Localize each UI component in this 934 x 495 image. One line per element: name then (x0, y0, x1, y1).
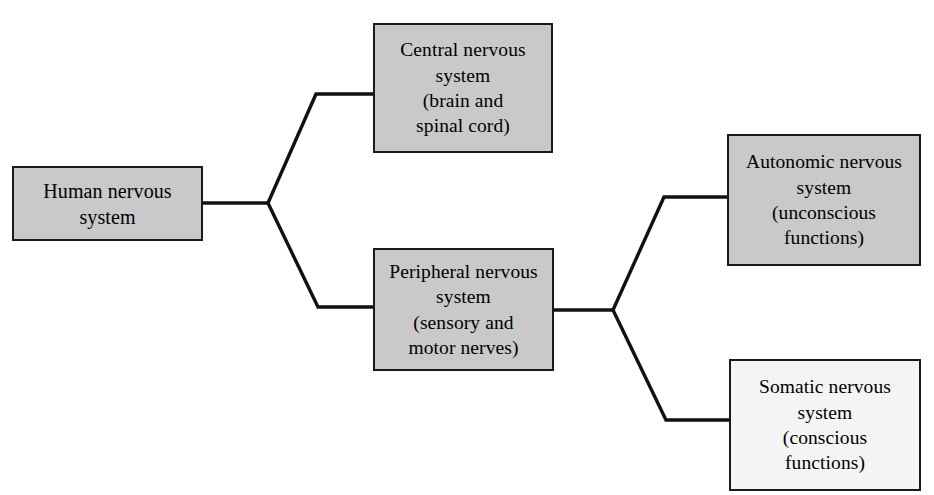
edge-peripheral-to-somatic (613, 310, 729, 420)
node-somatic-nervous-system[interactable]: Somatic nervous system (conscious functi… (729, 359, 921, 491)
node-somatic-nervous-system-label: Somatic nervous system (conscious functi… (755, 374, 895, 475)
node-central-nervous-system-label: Central nervous system (brain and spinal… (396, 37, 530, 138)
node-central-nervous-system[interactable]: Central nervous system (brain and spinal… (373, 23, 553, 153)
node-human-nervous-system-label: Human nervous system (39, 178, 176, 230)
edge-human-to-central (268, 94, 373, 203)
nervous-system-diagram: Human nervous system Central nervous sys… (0, 0, 934, 495)
node-autonomic-nervous-system[interactable]: Autonomic nervous system (unconscious fu… (727, 134, 921, 266)
edge-peripheral-to-autonomic (613, 197, 727, 310)
edge-human-to-peripheral (268, 203, 373, 307)
node-autonomic-nervous-system-label: Autonomic nervous system (unconscious fu… (742, 149, 906, 250)
node-peripheral-nervous-system-label: Peripheral nervous system (sensory and m… (385, 259, 542, 360)
node-human-nervous-system[interactable]: Human nervous system (12, 166, 203, 241)
node-peripheral-nervous-system[interactable]: Peripheral nervous system (sensory and m… (373, 248, 554, 371)
